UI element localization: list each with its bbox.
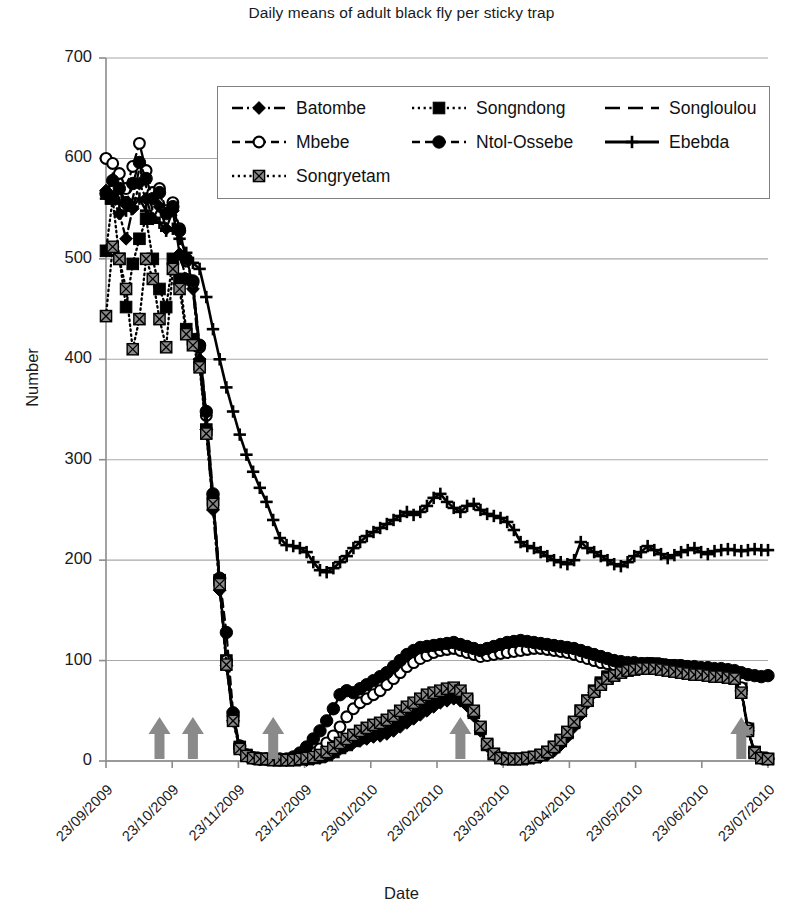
legend-key-icon [408, 125, 470, 159]
legend-label: Batombe [290, 98, 366, 119]
legend-label: Mbebe [290, 132, 350, 153]
y-tick-label: 500 [30, 248, 92, 267]
y-tick-label: 300 [30, 449, 92, 468]
legend-item-songndong: Songndong [408, 91, 566, 125]
y-tick-label: 400 [30, 348, 92, 367]
legend-item-songloulou: Songloulou [601, 91, 757, 125]
legend-label: Ntol-Ossebe [470, 132, 573, 153]
legend-key-icon [228, 91, 290, 125]
legend-item-ebebda: Ebebda [601, 125, 729, 159]
legend-label: Songndong [470, 98, 566, 119]
legend-item-songryetam: Songryetam [228, 159, 390, 193]
legend-item-ntol-ossebe: Ntol-Ossebe [408, 125, 573, 159]
series-songryetam [100, 241, 773, 765]
chart-title: Daily means of adult black fly per stick… [0, 4, 803, 22]
legend-item-batombe: Batombe [228, 91, 366, 125]
legend-label: Songryetam [290, 166, 390, 187]
legend: BatombeSongndongSongloulouMbebeNtol-Osse… [217, 86, 770, 199]
y-tick-label: 100 [30, 650, 92, 669]
legend-key-icon [228, 159, 290, 193]
y-tick-label: 200 [30, 549, 92, 568]
legend-label: Songloulou [663, 98, 757, 119]
legend-key-icon [408, 91, 470, 125]
y-tick-label: 0 [30, 750, 92, 769]
legend-item-mbebe: Mbebe [228, 125, 350, 159]
chart-container: Daily means of adult black fly per stick… [0, 0, 803, 923]
y-tick-label: 600 [30, 147, 92, 166]
legend-key-icon [601, 125, 663, 159]
x-axis-label: Date [0, 884, 803, 903]
y-tick-label: 700 [30, 47, 92, 66]
legend-key-icon [601, 91, 663, 125]
y-axis-label: Number [23, 318, 42, 438]
legend-key-icon [228, 125, 290, 159]
legend-label: Ebebda [663, 132, 729, 153]
